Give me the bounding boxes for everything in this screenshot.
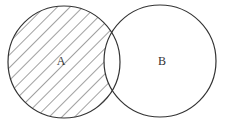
set-b-label: B (158, 54, 166, 68)
shaded-region-a-minus-b (0, 0, 225, 123)
venn-diagram: A B (0, 0, 225, 123)
set-a-label: A (57, 54, 66, 68)
